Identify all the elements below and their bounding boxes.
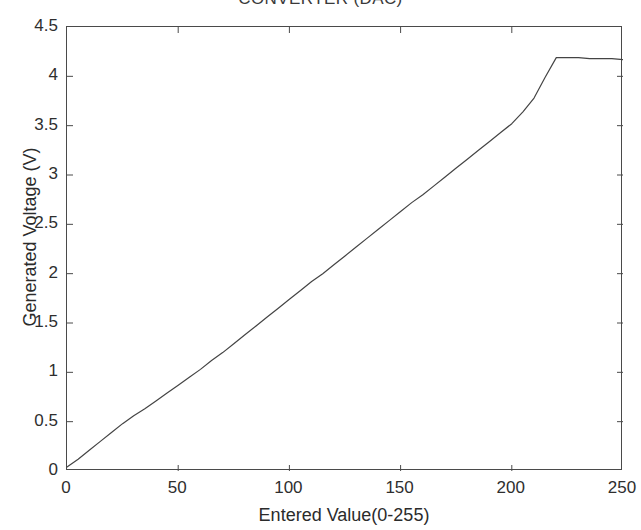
x-tick-label: 250 <box>608 479 636 496</box>
x-tick-label: 200 <box>497 479 525 496</box>
chart-figure: CONVERTER (DAC) 00.511.522.533.544.5 050… <box>0 0 641 530</box>
y-tick-label: 2 <box>49 264 58 281</box>
x-tick-label: 50 <box>168 479 187 496</box>
x-axis-label: Entered Value(0-255) <box>66 505 622 526</box>
y-tick-label: 3 <box>49 165 58 182</box>
x-axis-tick-labels: 050100150200250 <box>0 479 641 503</box>
x-tick-label: 0 <box>61 479 70 496</box>
data-series-line <box>67 58 623 467</box>
y-axis-label-wrap: Generated Voltage (V) <box>20 0 44 477</box>
plot-area <box>66 26 622 470</box>
x-tick-label: 150 <box>385 479 413 496</box>
y-tick-label: 1 <box>49 362 58 379</box>
chart-title: CONVERTER (DAC) <box>0 0 641 9</box>
y-tick-label: 0 <box>49 461 58 478</box>
data-line-svg <box>67 27 623 471</box>
x-tick-label: 100 <box>274 479 302 496</box>
y-axis-label: Generated Voltage (V) <box>20 0 41 477</box>
y-tick-label: 4 <box>49 66 58 83</box>
